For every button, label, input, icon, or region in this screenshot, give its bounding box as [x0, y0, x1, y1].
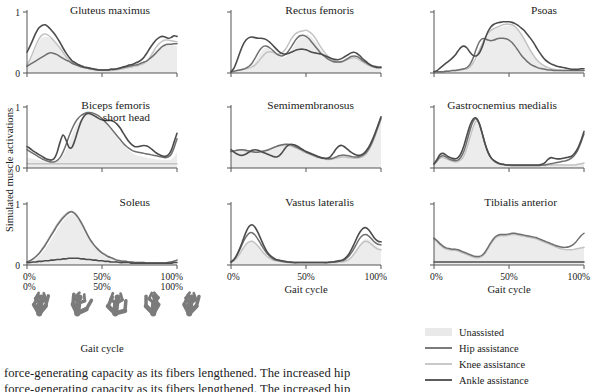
panel-title: Gastrocnemius medialis — [447, 99, 557, 111]
gait-strip-tick-label: 50% — [93, 281, 111, 292]
panel-title: Rectus femoris — [285, 4, 354, 16]
caption-line-1: force-generating capacity as its fibers … — [4, 366, 384, 381]
legend-label: Unassisted — [459, 327, 505, 338]
y-axis-label: Simulated muscle activations — [4, 108, 15, 232]
muscle-activation-figure: Simulated muscle activations 01Gluteus m… — [0, 0, 596, 392]
legend-label: Knee assistance — [459, 359, 525, 370]
x-tick-label: 0% — [227, 271, 240, 282]
x-tick-label: 50% — [500, 271, 518, 282]
gait-strip-tick-label: 0% — [23, 281, 36, 292]
y-tick-label: 1 — [15, 102, 20, 113]
legend-label: Ankle assistance — [459, 375, 529, 386]
panel-title: Biceps femoris — [81, 99, 150, 111]
x-tick-label: 100% — [568, 271, 590, 282]
x-axis-label: Gait cycle — [487, 284, 531, 295]
x-tick-label: 0% — [430, 271, 443, 282]
y-tick-label: 1 — [15, 199, 20, 210]
caption-line-2: force-generating capacity as its fibers … — [4, 382, 384, 392]
x-tick-label: 100% — [365, 271, 387, 282]
panel-title: short head — [103, 111, 150, 123]
x-axis-label: Gait cycle — [284, 284, 328, 295]
panel-title: Gluteus maximus — [70, 4, 151, 16]
legend-label: Hip assistance — [459, 343, 519, 354]
y-tick-label: 1 — [15, 7, 20, 18]
legend-swatch-area — [425, 328, 452, 336]
panel-title: Soleus — [120, 196, 151, 208]
gait-strip-tick-label: 100% — [161, 281, 183, 292]
panel-title: Tibialis anterior — [484, 196, 557, 208]
panel-title: Psoas — [531, 4, 558, 16]
y-tick-label: 0 — [15, 163, 20, 174]
x-tick-label: 50% — [297, 271, 315, 282]
y-tick-label: 0 — [15, 68, 20, 79]
panel-title: Semimembranosus — [267, 99, 354, 111]
panel-title: Vastus lateralis — [285, 196, 354, 208]
y-tick-label: 0 — [15, 260, 20, 271]
gait-strip-label: Gait cycle — [80, 343, 124, 354]
